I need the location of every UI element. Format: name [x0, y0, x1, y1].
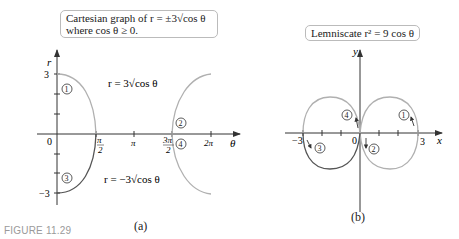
panel-a-origin: 0 [47, 136, 52, 147]
svg-text:1: 1 [65, 85, 69, 94]
theta-ticks: π2 π 3π2 2π [97, 135, 214, 155]
svg-text:2: 2 [98, 145, 103, 155]
x-tick-neg3: −3 [292, 135, 303, 146]
curve-bottom-label: r = −3√cos θ [104, 173, 160, 185]
figure-canvas: r 3 −3 0 π2 π 3π2 2π θ r = 3√cos θ r = −… [0, 0, 459, 239]
svg-text:2π: 2π [204, 138, 214, 148]
curve-top-label: r = 3√cos θ [108, 77, 158, 89]
svg-text:2: 2 [179, 119, 183, 128]
figure-label: FIGURE 11.29 [4, 225, 71, 236]
svg-text:3: 3 [318, 144, 322, 153]
svg-text:π: π [97, 135, 102, 145]
r-tick-3: 3 [44, 69, 49, 80]
svg-text:3: 3 [65, 174, 69, 183]
x-tick-3: 3 [420, 136, 425, 147]
svg-text:1: 1 [402, 111, 406, 120]
panel-b-origin: 0 [352, 135, 357, 146]
panel-a-label: (a) [134, 219, 147, 234]
svg-text:4: 4 [179, 140, 183, 149]
svg-text:4: 4 [345, 111, 349, 120]
x-axis-label: x [436, 134, 442, 146]
svg-text:π: π [131, 138, 136, 148]
panel-b-label: (b) [351, 210, 365, 225]
theta-axis-label: θ [230, 137, 236, 149]
r-tick-neg3: −3 [39, 188, 50, 199]
svg-text:2: 2 [166, 145, 171, 155]
r-axis-label: r [47, 56, 52, 68]
y-axis-label: y [352, 45, 358, 57]
svg-text:2: 2 [372, 145, 376, 154]
svg-text:3π: 3π [162, 135, 173, 145]
